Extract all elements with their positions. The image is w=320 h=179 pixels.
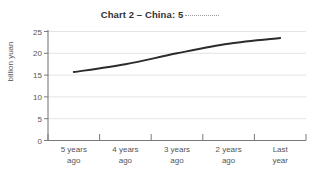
- chart-container: Chart 2 – China: 5 billion yuan 25 20 15…: [0, 0, 320, 179]
- x-tick-label-1-line2: ago: [119, 156, 133, 165]
- x-tick-label-0-line1: 5 years: [61, 145, 87, 154]
- data-series-line: [74, 38, 280, 72]
- y-tick-label-25: 25: [33, 28, 42, 37]
- y-axis: [44, 30, 48, 141]
- y-tick-label-0: 0: [38, 137, 43, 146]
- y-tick-label-20: 20: [33, 49, 42, 58]
- x-axis: [48, 134, 306, 141]
- x-tick-labels: 5 years ago 4 years ago 3 years ago 2 ye…: [61, 145, 289, 165]
- x-tick-label-3-line2: ago: [222, 156, 236, 165]
- y-tick-label-10: 10: [33, 93, 42, 102]
- chart-plot-area: 25 20 15 10 5 0 5 years ago 4 years ago …: [0, 0, 320, 179]
- x-tick-label-1-line1: 4 years: [112, 145, 138, 154]
- x-tick-label-2-line2: ago: [170, 156, 184, 165]
- y-gridlines: [48, 32, 306, 119]
- x-tick-label-4-line1: Last: [273, 145, 289, 154]
- x-tick-label-2-line1: 3 years: [164, 145, 190, 154]
- x-tick-label-3-line1: 2 years: [215, 145, 241, 154]
- x-tick-label-4-line2: year: [272, 156, 288, 165]
- y-tick-label-15: 15: [33, 71, 42, 80]
- x-tick-label-0-line2: ago: [67, 156, 81, 165]
- y-tick-labels: 25 20 15 10 5 0: [33, 28, 42, 146]
- y-tick-label-5: 5: [38, 115, 43, 124]
